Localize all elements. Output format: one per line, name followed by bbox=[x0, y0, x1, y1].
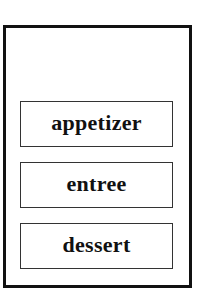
menu-item-label: entree bbox=[66, 173, 126, 195]
menu-item-appetizer: appetizer bbox=[20, 101, 173, 147]
menu-item-label: appetizer bbox=[51, 112, 142, 134]
menu-item-label: dessert bbox=[62, 234, 130, 256]
menu-item-entree: entree bbox=[20, 162, 173, 208]
menu-item-dessert: dessert bbox=[20, 223, 173, 269]
